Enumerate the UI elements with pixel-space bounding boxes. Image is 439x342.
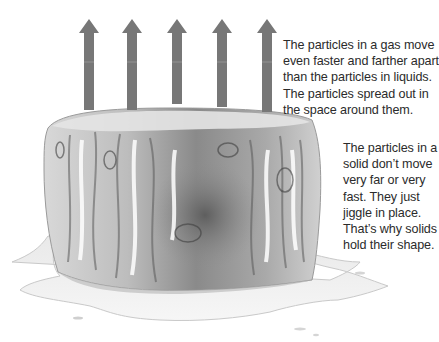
- caption-line: than the particles in liquids.: [283, 69, 439, 85]
- solid-caption: The particles in a solid don’t move very…: [343, 140, 437, 253]
- caption-line: very far or very: [343, 172, 437, 188]
- caption-line: The particles in a gas move: [283, 37, 439, 53]
- caption-line: The particles spread out in: [283, 86, 439, 102]
- up-arrow-icon: [167, 19, 187, 104]
- gas-caption: The particles in a gas move even faster …: [283, 37, 439, 118]
- caption-line: That’s why solids: [343, 221, 437, 237]
- caption-line: even faster and farther apart: [283, 53, 439, 69]
- caption-line: jiggle in place.: [343, 205, 437, 221]
- up-arrow-icon: [257, 19, 277, 112]
- caption-line: hold their shape.: [343, 237, 437, 253]
- caption-line: The particles in a: [343, 140, 437, 156]
- up-arrow-icon: [79, 19, 99, 110]
- up-arrow-icon: [212, 19, 232, 107]
- caption-line: solid don’t move: [343, 156, 437, 172]
- up-arrow-icon: [122, 19, 142, 110]
- ice-cube: [44, 108, 321, 294]
- caption-line: the space around them.: [283, 102, 439, 118]
- caption-line: fast. They just: [343, 189, 437, 205]
